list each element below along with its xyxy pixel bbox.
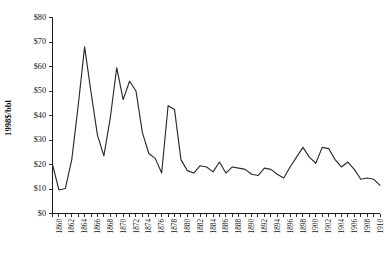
y-axis-ticks: $0$10$20$30$40$50$60$70$80	[34, 13, 53, 218]
y-axis-title-group: 1998$/bbl	[3, 99, 13, 135]
y-tick-label: $80	[34, 13, 46, 22]
x-tick-label: 1876	[158, 219, 166, 234]
y-tick-label: $30	[34, 135, 46, 144]
x-tick-label: 1908	[364, 219, 372, 234]
x-tick-label: 1888	[235, 219, 243, 234]
x-tick-label: 1862	[68, 219, 76, 234]
x-tick-label: 1860	[56, 219, 64, 234]
x-tick-label: 1906	[351, 219, 359, 234]
y-tick-label: $20	[34, 160, 46, 169]
x-tick-label: 1866	[94, 219, 102, 234]
y-axis-title: 1998$/bbl	[3, 99, 13, 135]
x-tick-label: 1900	[312, 219, 320, 234]
x-tick-label: 1868	[107, 219, 115, 234]
x-tick-label: 1872	[133, 219, 141, 234]
y-tick-label: $10	[34, 184, 46, 193]
y-tick-label: $0	[38, 209, 46, 218]
y-tick-label: $60	[34, 62, 46, 71]
x-tick-label: 1886	[222, 219, 230, 234]
data-series-line	[53, 47, 381, 190]
x-tick-label: 1882	[197, 219, 205, 234]
y-tick-label: $50	[34, 86, 46, 95]
x-tick-label: 1896	[287, 219, 295, 234]
x-tick-label: 1902	[325, 219, 333, 234]
x-tick-label: 1890	[248, 219, 256, 234]
y-tick-label: $40	[34, 111, 46, 120]
x-tick-label: 1898	[300, 219, 308, 234]
x-tick-label: 1884	[210, 219, 218, 234]
x-tick-label: 1880	[184, 219, 192, 234]
x-axis-ticks: 1860186218641866186818701872187418761878…	[53, 214, 385, 234]
x-tick-label: 1870	[120, 219, 128, 234]
x-tick-label: 1864	[81, 219, 89, 234]
x-tick-label: 1904	[338, 219, 346, 234]
price-line-chart: 1998$/bbl $0$10$20$30$40$50$60$70$80 186…	[0, 0, 388, 263]
y-tick-label: $70	[34, 37, 46, 46]
x-tick-label: 1892	[261, 219, 269, 234]
x-tick-label: 1878	[171, 219, 179, 234]
x-tick-label: 1874	[145, 219, 153, 234]
x-tick-label: 1910	[377, 219, 385, 234]
x-tick-label: 1894	[274, 219, 282, 234]
chart-container: 1998$/bbl $0$10$20$30$40$50$60$70$80 186…	[0, 0, 388, 263]
